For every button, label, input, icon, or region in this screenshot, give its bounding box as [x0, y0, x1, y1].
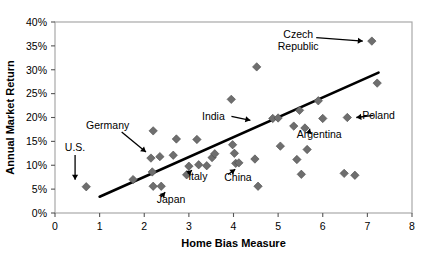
y-tick-label: 10% — [26, 159, 47, 171]
y-tick-label: 15% — [26, 135, 47, 147]
y-tick-label: 25% — [26, 87, 47, 99]
x-tick-label: 5 — [275, 220, 281, 232]
x-tick-label: 8 — [409, 220, 415, 232]
x-axis-title: Home Bias Measure — [181, 237, 286, 249]
x-tick-label: 6 — [320, 220, 326, 232]
annotation-label: U.S. — [65, 141, 85, 153]
annotation-label: India — [202, 110, 225, 122]
x-tick-label: 1 — [97, 220, 103, 232]
y-tick-label: 30% — [26, 64, 47, 76]
chart-canvas: 0%5%10%15%20%25%30%35%40%012345678Home B… — [0, 0, 426, 269]
annotation-label: Republic — [278, 40, 319, 52]
annotation-label: China — [224, 171, 252, 183]
x-tick-label: 0 — [52, 220, 58, 232]
annotation-label: Argentina — [297, 128, 342, 140]
annotation-label: Poland — [362, 109, 395, 121]
x-tick-label: 3 — [186, 220, 192, 232]
x-tick-label: 2 — [141, 220, 147, 232]
y-tick-label: 0% — [32, 207, 47, 219]
annotation-label: Japan — [157, 193, 186, 205]
scatter-chart: 0%5%10%15%20%25%30%35%40%012345678Home B… — [0, 0, 426, 269]
y-tick-label: 35% — [26, 40, 47, 52]
y-tick-label: 5% — [32, 183, 47, 195]
y-axis-title: Annual Market Return — [4, 60, 16, 175]
x-tick-label: 7 — [364, 220, 370, 232]
annotation-label: Italy — [188, 170, 208, 182]
y-tick-label: 40% — [26, 16, 47, 28]
annotation-label: Czech — [283, 28, 313, 40]
annotation-label: Germany — [86, 119, 130, 131]
y-tick-label: 20% — [26, 111, 47, 123]
x-tick-label: 4 — [231, 220, 237, 232]
